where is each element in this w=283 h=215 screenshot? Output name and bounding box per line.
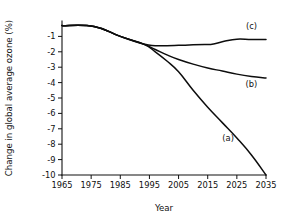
ozone-change-chart: -1-2-3-4-5-6-7-8-9-10 196519751985199520… — [0, 0, 283, 215]
x-tick-label: 1985 — [110, 180, 131, 190]
series-line-b — [62, 25, 266, 78]
y-tick-label: -6 — [47, 108, 55, 118]
y-axis-title: Change in global average ozone (%) — [4, 20, 14, 176]
x-tick-label: 1995 — [139, 180, 160, 190]
series-lines — [62, 25, 266, 175]
y-tick-label: -3 — [47, 62, 55, 72]
x-tick-label: 1965 — [51, 180, 72, 190]
y-tick-label: -2 — [47, 47, 55, 57]
x-tick-label: 1975 — [81, 180, 102, 190]
y-tick-label: -10 — [42, 170, 56, 180]
ozone-change-figure: -1-2-3-4-5-6-7-8-9-10 196519751985199520… — [0, 0, 283, 215]
x-tick-label: 2005 — [168, 180, 189, 190]
series-line-c — [62, 25, 266, 46]
x-axis-title: Year — [154, 203, 174, 213]
x-tick-label: 2025 — [226, 180, 247, 190]
series-line-a — [62, 25, 266, 175]
y-tick-label: -4 — [47, 78, 55, 88]
x-tick-label: 2015 — [197, 180, 218, 190]
y-axis-ticks: -1-2-3-4-5-6-7-8-9-10 — [42, 31, 62, 180]
x-axis-group: 19651975198519952005201520252035 — [51, 175, 276, 190]
series-label-b: (b) — [246, 79, 258, 89]
y-tick-label: -1 — [47, 31, 55, 41]
y-tick-label: -7 — [47, 124, 55, 134]
y-tick-label: -8 — [47, 139, 55, 149]
y-axis-group: -1-2-3-4-5-6-7-8-9-10 — [42, 21, 62, 180]
y-tick-label: -9 — [47, 155, 55, 165]
y-tick-label: -5 — [47, 93, 55, 103]
series-label-a: (a) — [222, 133, 234, 143]
x-tick-label: 2035 — [255, 180, 276, 190]
series-label-c: (c) — [246, 21, 257, 31]
x-axis-ticks: 19651975198519952005201520252035 — [51, 175, 276, 190]
